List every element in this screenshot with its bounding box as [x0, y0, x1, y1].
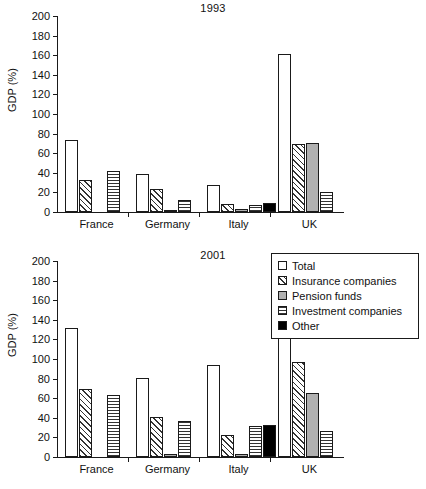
y-tick-label: 0	[44, 452, 50, 463]
legend-label: Total	[292, 260, 315, 272]
x-tick-label-france: France	[65, 463, 128, 475]
legend-swatch-other-icon	[278, 321, 287, 330]
bar-investment	[178, 421, 191, 457]
bar-group: France	[65, 16, 128, 212]
bar-total	[207, 185, 220, 212]
y-tick-label: 20	[38, 432, 50, 443]
y-tick-label: 140	[32, 314, 50, 325]
figure: 1993 GDP (%) 0 20 40 60 80 100 120 140 1…	[0, 0, 426, 489]
y-tick-label: 180	[32, 275, 50, 286]
legend-item-investment-companies: Investment companies	[278, 303, 413, 318]
y-tick-label: 100	[32, 354, 50, 365]
y-tick-label: 20	[38, 187, 50, 198]
bar-investment	[107, 171, 120, 212]
bar-total	[65, 140, 78, 213]
bar-insurance	[292, 144, 305, 212]
legend-label: Investment companies	[292, 305, 402, 317]
bar-other	[263, 203, 276, 212]
x-tick-label-italy: Italy	[207, 463, 270, 475]
bars	[136, 261, 206, 457]
y-tick-label: 60	[38, 148, 50, 159]
bar-investment	[178, 200, 191, 212]
x-tick-label-germany: Germany	[136, 218, 199, 230]
bars	[65, 16, 135, 212]
bar-pension	[306, 393, 319, 457]
y-axis-line	[57, 261, 58, 457]
bars	[207, 16, 277, 212]
bar-total	[278, 54, 291, 212]
y-tick-label: 0	[44, 207, 50, 218]
y-tick-label: 120	[32, 89, 50, 100]
legend-swatch-insurance-icon	[278, 276, 287, 285]
plot-area-1993: 0 20 40 60 80 100 120 140 160 180 200	[57, 16, 344, 212]
legend-swatch-investment-icon	[278, 306, 287, 315]
bar-pension	[235, 209, 248, 212]
chart-panel-2001: 2001 GDP (%) 0 20 40 60 80 100 120 140 1…	[0, 245, 426, 489]
y-axis-label-2001: GDP (%)	[6, 313, 18, 357]
legend: Total Insurance companies Pension funds …	[271, 253, 419, 339]
x-tick-label-uk: UK	[278, 463, 341, 475]
y-tick-label: 80	[38, 373, 50, 384]
bar-group: Italy	[207, 16, 270, 212]
y-tick-label: 160	[32, 295, 50, 306]
y-tick-label: 200	[32, 256, 50, 267]
bar-investment	[107, 395, 120, 457]
y-axis-line	[57, 16, 58, 212]
bar-pension	[235, 454, 248, 457]
legend-item-insurance-companies: Insurance companies	[278, 273, 413, 288]
bar-total	[136, 174, 149, 212]
legend-label: Insurance companies	[292, 275, 397, 287]
bar-insurance	[79, 389, 92, 457]
chart-title-1993: 1993	[0, 2, 426, 14]
bar-group: France	[65, 261, 128, 457]
bar-investment	[249, 205, 262, 212]
bar-investment	[320, 192, 333, 212]
bar-investment	[249, 426, 262, 457]
y-tick-label: 80	[38, 128, 50, 139]
bar-insurance	[221, 204, 234, 212]
x-tick-label-germany: Germany	[136, 463, 199, 475]
y-tick-label: 60	[38, 393, 50, 404]
chart-panel-1993: 1993 GDP (%) 0 20 40 60 80 100 120 140 1…	[0, 0, 426, 244]
bar-total	[65, 328, 78, 457]
bar-insurance	[292, 362, 305, 457]
y-axis-label-1993: GDP (%)	[6, 68, 18, 112]
legend-item-pension-funds: Pension funds	[278, 288, 413, 303]
bar-group: Germany	[136, 261, 199, 457]
bar-pension	[164, 210, 177, 212]
legend-label: Other	[292, 320, 320, 332]
y-tick-label: 100	[32, 109, 50, 120]
x-axis-line	[57, 457, 344, 458]
legend-item-other: Other	[278, 318, 413, 333]
x-tick-label-italy: Italy	[207, 218, 270, 230]
bars	[65, 261, 135, 457]
bar-group: Italy	[207, 261, 270, 457]
bar-insurance	[150, 417, 163, 457]
bars	[207, 261, 277, 457]
y-tick-label: 140	[32, 69, 50, 80]
x-tick-label-france: France	[65, 218, 128, 230]
y-tick-label: 40	[38, 412, 50, 423]
legend-swatch-total-icon	[278, 261, 287, 270]
bar-pension	[164, 454, 177, 457]
y-tick-label: 180	[32, 30, 50, 41]
legend-item-total: Total	[278, 258, 413, 273]
y-tick-label: 160	[32, 50, 50, 61]
x-axis-line	[57, 212, 344, 213]
bar-investment	[320, 431, 333, 457]
bars	[136, 16, 206, 212]
y-tick-label: 120	[32, 334, 50, 345]
bar-pension	[306, 143, 319, 212]
bar-total	[136, 378, 149, 457]
legend-swatch-pension-icon	[278, 291, 287, 300]
bar-insurance	[150, 189, 163, 213]
x-tick-label-uk: UK	[278, 218, 341, 230]
bar-insurance	[79, 180, 92, 212]
bars	[278, 16, 348, 212]
bar-group: UK	[278, 16, 341, 212]
bar-other	[263, 425, 276, 457]
y-tick-label: 200	[32, 11, 50, 22]
bar-group: Germany	[136, 16, 199, 212]
y-tick-label: 40	[38, 167, 50, 178]
bar-insurance	[221, 435, 234, 457]
